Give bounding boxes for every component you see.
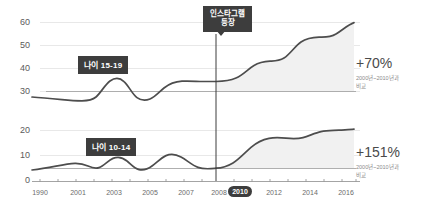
xtick-2001: 2001: [63, 189, 93, 196]
annotation-lower-subtitle: 2000년~2010년과 비교: [356, 163, 400, 180]
xtick-2007: 2007: [171, 189, 201, 196]
xtick-2014: 2014: [295, 189, 325, 196]
annotation-upper-subtitle: 2000년~2010년과 비교: [356, 74, 399, 91]
upper-ytick-30: 30: [8, 86, 30, 96]
xtick-1990: 1990: [25, 189, 55, 196]
event-arrow-icon: [216, 30, 226, 36]
annotation-upper-subtitle-line1: 2000년~2010년과: [356, 75, 399, 81]
xtick-2012: 2012: [259, 189, 289, 196]
upper-ytick-60: 60: [8, 17, 30, 27]
lower-ytick-0: 0: [8, 175, 30, 185]
annotation-lower-subtitle-line1: 2000년~2010년과: [356, 164, 399, 170]
upper-ytick-50: 50: [8, 40, 30, 50]
annotation-upper-subtitle-line2: 비교: [356, 83, 366, 89]
chart-root: 60 50 40 30 20 10 0 1990 2001 2003 2005 …: [0, 0, 430, 209]
event-callout-line2: 등장: [210, 18, 245, 27]
lower-ytick-10: 10: [8, 150, 30, 160]
xtick-2016: 2016: [331, 189, 361, 196]
annotation-upper: +70% 2000년~2010년과 비교: [356, 55, 399, 91]
event-callout: 인스타그램 등장: [203, 6, 252, 32]
lower-ytick-20: 20: [8, 125, 30, 135]
series-label-lower: 나이 10-14: [86, 138, 136, 156]
xtick-2005: 2005: [135, 189, 165, 196]
upper-ytick-40: 40: [8, 63, 30, 73]
annotation-lower-percent: +151%: [356, 144, 400, 160]
lower-shaded-area: [216, 129, 354, 168]
annotation-lower-subtitle-line2: 비교: [356, 172, 366, 178]
xtick-2010-highlighted: 2010: [228, 186, 252, 197]
annotation-upper-percent: +70%: [356, 55, 399, 71]
annotation-lower: +151% 2000년~2010년과 비교: [356, 144, 400, 180]
series-label-upper: 나이 15-19: [78, 56, 128, 74]
event-callout-line1: 인스타그램: [210, 9, 245, 18]
xtick-2003: 2003: [99, 189, 129, 196]
